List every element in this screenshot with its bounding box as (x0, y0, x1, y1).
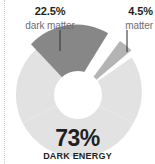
callout-matter: 4.5% matter (97, 6, 153, 31)
callout-dark-matter: 22.5% dark matter (14, 6, 86, 31)
dark-matter-percent: 22.5% (14, 6, 86, 17)
matter-percent: 4.5% (97, 6, 153, 17)
dark-energy-percent: 73% (0, 127, 155, 150)
matter-label: matter (97, 21, 153, 31)
dark-energy-donut-chart-figure: 22.5% dark matter 4.5% matter 73% DARK E… (0, 0, 155, 164)
dark-matter-label: dark matter (14, 21, 86, 31)
callout-dark-energy: 73% DARK ENERGY (0, 127, 155, 161)
donut-center-hole (54, 71, 102, 119)
dark-energy-label: DARK ENERGY (0, 152, 155, 161)
